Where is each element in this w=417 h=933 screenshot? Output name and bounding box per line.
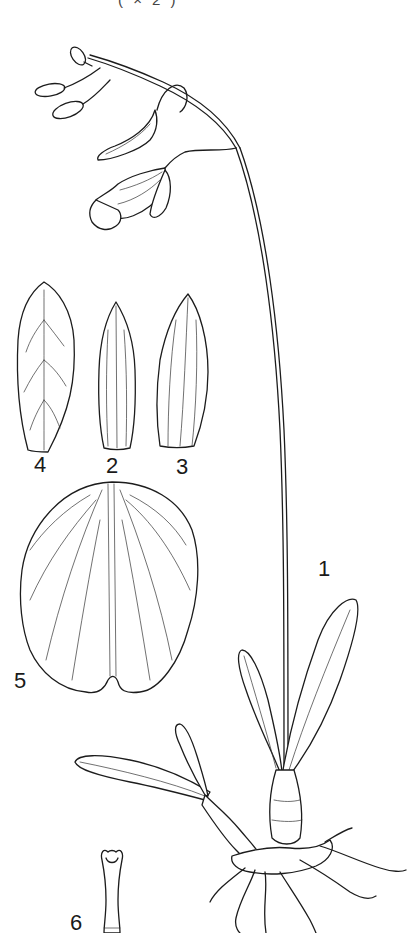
lip-figure — [20, 482, 197, 693]
lateral-sepal-figure — [157, 294, 208, 448]
figure-label-lateral-sepal: 3 — [176, 456, 188, 478]
figure-label-lip: 5 — [14, 670, 26, 692]
botanical-illustration — [0, 0, 417, 933]
figure-label-dorsal-sepal: 2 — [106, 455, 118, 477]
dorsal-sepal-figure — [99, 302, 136, 450]
figure-label-column: 6 — [70, 912, 82, 933]
figure-label-petal: 4 — [34, 454, 46, 476]
figure-label-habit: 1 — [318, 558, 330, 580]
column-figure — [101, 850, 122, 933]
petal-figure — [17, 282, 74, 452]
